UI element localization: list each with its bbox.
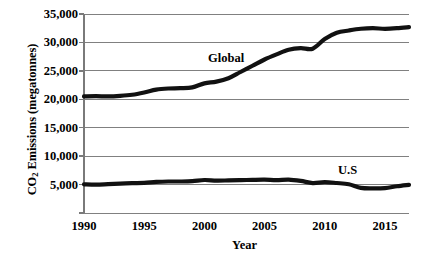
x-tick-label-1995: 1995 [120, 219, 168, 234]
x-tick-label-1990: 1990 [60, 219, 108, 234]
series-label-global: Global [207, 51, 245, 66]
x-tick-label-2000: 2000 [180, 219, 228, 234]
co2-emissions-line-chart: CO2 Emissions (megatonnes) 35,000 30,000… [0, 0, 429, 268]
x-tick-label-2015: 2015 [361, 219, 409, 234]
x-tick-label-2010: 2010 [301, 219, 349, 234]
data-line-global [84, 27, 409, 96]
x-axis-title: Year [0, 238, 429, 253]
series-label-us: U.S [337, 163, 358, 178]
x-axis-tick-labels: 1990 1995 2000 2005 2010 2015 [0, 219, 429, 237]
data-line-us [84, 180, 409, 189]
x-tick-label-2005: 2005 [241, 219, 289, 234]
